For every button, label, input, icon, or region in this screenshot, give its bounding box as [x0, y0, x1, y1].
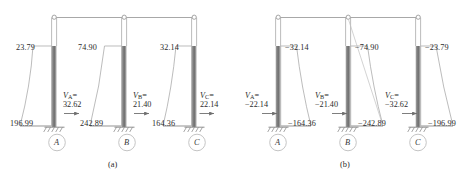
panel-b-col-A-top-moment-label: −32.14: [285, 44, 309, 52]
column-B-moment-diagram: [90, 46, 122, 126]
column-b-C-moment-diagram: [421, 46, 453, 126]
shear-subscript-B: B: [138, 93, 142, 100]
panel-b-caption: (b): [340, 160, 350, 169]
column-B-shaft: [122, 46, 127, 127]
shear-equals-A: =: [72, 91, 77, 100]
column-C-fixed-support-icon: [184, 127, 205, 132]
column-b-B-fixed-support-icon: [338, 127, 359, 132]
panel-b-column-B: [332, 15, 383, 151]
shear-subscript-A: A: [68, 93, 72, 100]
panel-a-col-C-shear-label: VC= 22.14: [200, 92, 218, 110]
panel-b-col-A-shear-label: VA= −22.14: [245, 92, 268, 110]
shear-equals-C: =: [209, 91, 214, 100]
panel-a-col-C-base-moment-label: 164.36: [152, 120, 175, 128]
shear-subscript-b-B: B: [320, 93, 324, 100]
column-b-B-top-hinge-icon: [346, 15, 350, 19]
column-A-shaft: [52, 46, 57, 127]
panel-a-col-A-base-moment-label: 196.99: [10, 120, 33, 128]
shear-value-b-B: −21.40: [315, 100, 338, 109]
panel-a-col-C-top-moment-label: 32.14: [160, 44, 179, 52]
shear-value-B: 21.40: [133, 100, 151, 109]
panel-b-col-B-base-moment-label: −242.89: [358, 120, 386, 128]
column-b-C-top-hinge-icon: [416, 15, 420, 19]
column-b-B-shaft: [346, 46, 351, 127]
panel-b-node-label-B: B: [345, 138, 350, 147]
panel-b-col-C-top-moment-label: −23.79: [425, 44, 449, 52]
panel-b-node-label-A: A: [275, 138, 280, 147]
panel-a-node-label-C: C: [194, 138, 200, 147]
column-C-moment-diagram: [163, 46, 192, 126]
column-b-C-fixed-support-icon: [408, 127, 429, 132]
panel-a: [20, 15, 214, 151]
shear-value-b-C: −32.62: [385, 100, 408, 109]
panel-a-col-B-base-moment-label: 242.89: [80, 120, 103, 128]
panel-b-col-B-top-moment-label: −74.90: [355, 44, 379, 52]
column-A-fixed-support-icon: [44, 127, 65, 132]
shear-equals-b-A: =: [254, 91, 259, 100]
column-B-top-hinge-icon: [122, 15, 126, 19]
column-C-shaft: [192, 46, 197, 127]
shear-subscript-C: C: [205, 93, 209, 100]
column-b-A-moment-diagram: [281, 46, 311, 126]
column-C-top-hinge-icon: [192, 15, 196, 19]
panel-b-node-label-C: C: [415, 138, 421, 147]
panel-a-node-label-B: B: [124, 138, 129, 147]
panel-a-col-B-top-moment-label: 74.90: [78, 44, 97, 52]
column-A-top-hinge-icon: [52, 15, 56, 19]
column-A-moment-diagram: [20, 46, 52, 126]
shear-subscript-b-C: C: [390, 93, 394, 100]
frame-moment-diagram-figure: [0, 0, 473, 180]
panel-a-column-C: [163, 15, 214, 151]
panel-b-col-B-shear-label: VB= −21.40: [315, 92, 338, 110]
panel-a-col-B-shear-label: VB= 21.40: [133, 92, 151, 110]
panel-a-col-A-shear-label: VA= 32.62: [63, 92, 81, 110]
column-b-B-moment-chord: [349, 20, 384, 127]
column-B-fixed-support-icon: [114, 127, 135, 132]
column-b-B-moment-diagram: [351, 46, 383, 126]
shear-value-A: 32.62: [63, 100, 81, 109]
panel-b-col-C-shear-label: VC= −32.62: [385, 92, 408, 110]
shear-value-C: 22.14: [200, 100, 218, 109]
panel-a-column-A: [20, 15, 79, 151]
panel-b: [262, 15, 453, 151]
column-b-A-shaft: [276, 46, 281, 127]
shear-equals-b-C: =: [394, 91, 399, 100]
panel-a-col-A-top-moment-label: 23.79: [16, 44, 35, 52]
column-b-A-fixed-support-icon: [268, 127, 289, 132]
shear-subscript-b-A: A: [250, 93, 254, 100]
panel-b-column-A: [262, 15, 311, 151]
column-b-C-shaft: [416, 46, 421, 127]
shear-equals-b-B: =: [324, 91, 329, 100]
panel-a-node-label-A: A: [54, 138, 59, 147]
shear-equals-B: =: [142, 91, 147, 100]
panel-b-col-C-base-moment-label: −196.99: [428, 120, 456, 128]
shear-value-b-A: −22.14: [245, 100, 268, 109]
panel-a-caption: (a): [108, 160, 117, 169]
column-b-A-top-hinge-icon: [276, 15, 280, 19]
panel-b-column-C: [402, 15, 453, 151]
panel-a-column-B: [90, 15, 149, 151]
panel-b-col-A-base-moment-label: −164.36: [288, 120, 316, 128]
